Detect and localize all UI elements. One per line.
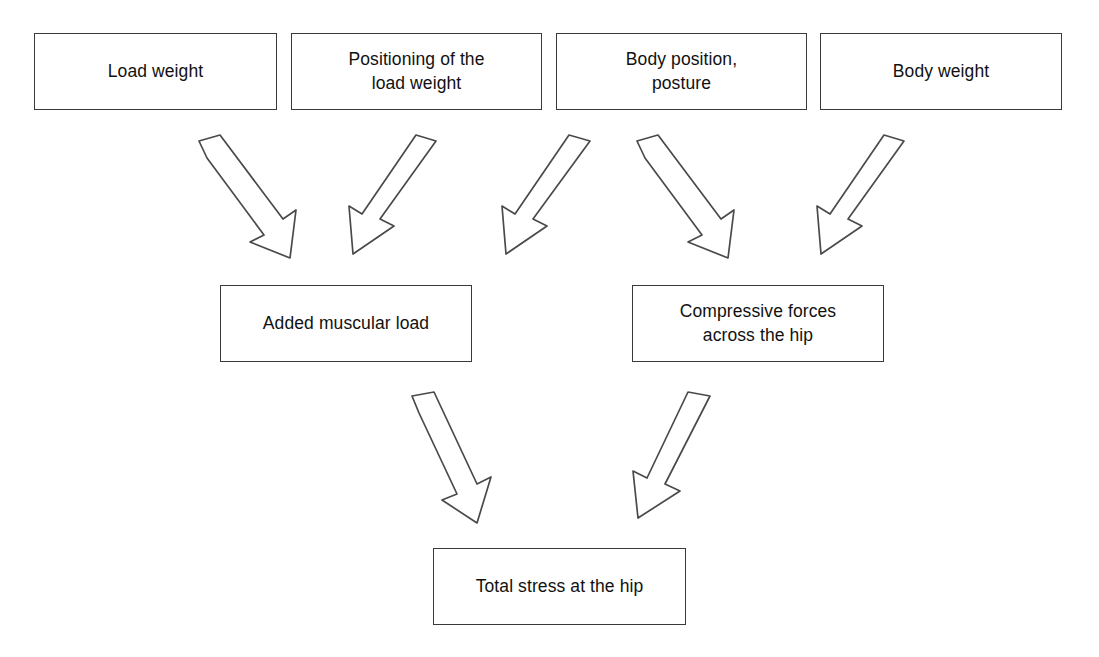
arrow-body-weight-to-compressive-forces (817, 135, 904, 254)
node-compressive-forces-across-the-hip[interactable]: Compressive forces across the hip (632, 285, 884, 362)
node-label: Body weight (893, 60, 989, 83)
node-total-stress-at-the-hip[interactable]: Total stress at the hip (433, 548, 686, 625)
node-body-weight[interactable]: Body weight (820, 33, 1062, 110)
arrow-body-position-to-added-muscular-load (502, 135, 590, 254)
node-label: Total stress at the hip (476, 575, 644, 598)
node-label: Body position, posture (626, 48, 737, 94)
arrow-positioning-to-added-muscular-load (349, 135, 436, 254)
node-label: Compressive forces across the hip (680, 300, 836, 346)
arrow-load-weight-to-added-muscular-load (199, 135, 296, 258)
arrow-added-muscular-load-to-total-stress (412, 392, 491, 523)
arrow-body-position-to-compressive-forces (637, 135, 734, 258)
flowchart-diagram: Load weight Positioning of the load weig… (0, 0, 1099, 657)
node-added-muscular-load[interactable]: Added muscular load (220, 285, 472, 362)
node-label: Positioning of the load weight (348, 48, 484, 94)
node-label: Load weight (108, 60, 203, 83)
node-body-position-posture[interactable]: Body position, posture (556, 33, 807, 110)
node-label: Added muscular load (263, 312, 429, 335)
node-positioning-of-the-load-weight[interactable]: Positioning of the load weight (291, 33, 542, 110)
arrow-compressive-forces-to-total-stress (633, 392, 710, 518)
node-load-weight[interactable]: Load weight (34, 33, 277, 110)
